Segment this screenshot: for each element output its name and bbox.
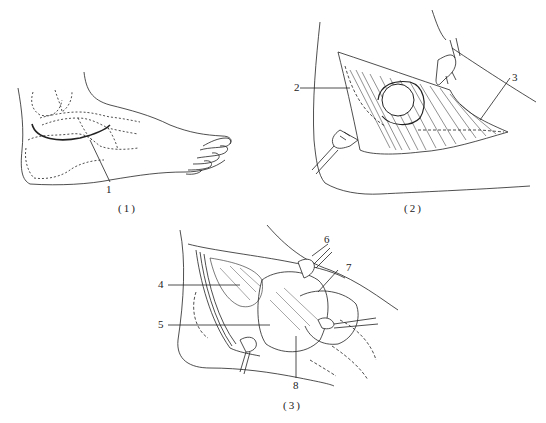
panel-3-dissection-drawing [0, 0, 546, 423]
label-7: 7 [346, 262, 352, 273]
figure-canvas: 1 (1) 2 3 (2) [0, 0, 546, 423]
label-8: 8 [293, 380, 299, 391]
label-5: 5 [158, 319, 164, 330]
label-4: 4 [158, 279, 164, 290]
label-6: 6 [324, 234, 330, 245]
caption-panel-3: (3) [283, 400, 302, 411]
